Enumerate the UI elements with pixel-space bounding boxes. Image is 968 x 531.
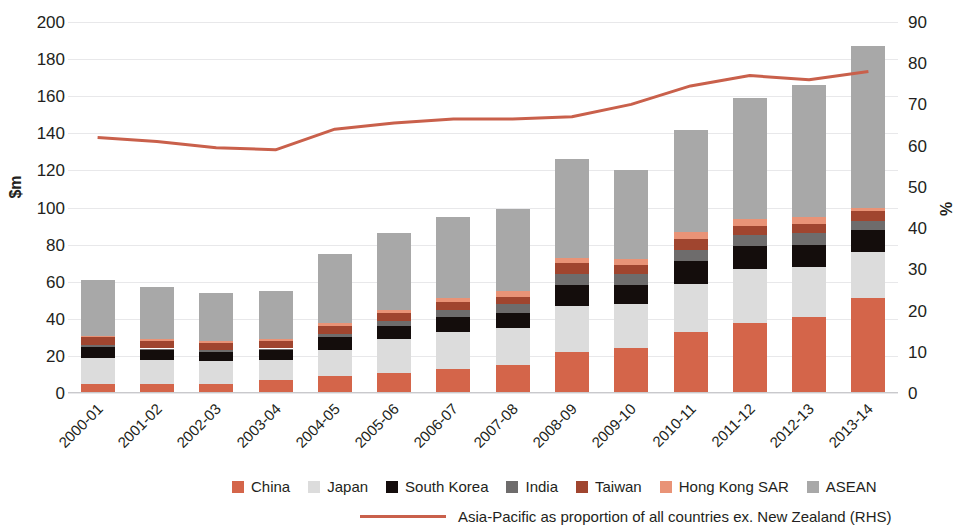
y-axis-right-tick: 80 (908, 55, 954, 72)
legend-label: South Korea (405, 478, 488, 495)
legend-swatch-icon (660, 481, 672, 493)
y-axis-right-tick: 50 (908, 179, 954, 196)
y-axis-left-tick: 120 (5, 162, 65, 179)
legend-label: Japan (327, 478, 368, 495)
legend-item[interactable]: Hong Kong SAR (660, 478, 789, 495)
legend-item[interactable]: India (506, 478, 558, 495)
x-axis-tick-label: 2002-03 (173, 400, 224, 451)
y-axis-right-tick: 60 (908, 138, 954, 155)
x-axis-tick-label: 2011-12 (708, 400, 758, 450)
x-axis-tick-label: 2007-08 (470, 400, 521, 451)
legend-swatch-icon (232, 481, 244, 493)
x-axis-tick-label: 2004-05 (292, 400, 343, 451)
legend-swatch-icon (386, 481, 398, 493)
y-axis-left-tick: 200 (5, 14, 65, 31)
y-axis-left-tick: 0 (5, 385, 65, 402)
legend-line-label: Asia-Pacific as proportion of all countr… (458, 508, 892, 525)
grid-line (68, 393, 898, 394)
line-swatch-icon (360, 515, 446, 518)
legend-swatch-icon (308, 481, 320, 493)
legend-item[interactable]: China (232, 478, 290, 495)
legend-label: ASEAN (826, 478, 877, 495)
y-axis-right-tick: 30 (908, 261, 954, 278)
x-axis-baseline (68, 392, 898, 393)
x-axis-tick-label: 2010-11 (648, 400, 698, 450)
y-axis-left-tick: 60 (5, 274, 65, 291)
y-axis-left-tick: 180 (5, 51, 65, 68)
legend-item[interactable]: South Korea (386, 478, 488, 495)
legend-label: Taiwan (595, 478, 642, 495)
y-axis-right-tick: 40 (908, 220, 954, 237)
legend-item[interactable]: Japan (308, 478, 368, 495)
y-axis-right-tick: 70 (908, 96, 954, 113)
y-axis-right-tick: 90 (908, 14, 954, 31)
line-series-overlay (68, 22, 898, 393)
x-axis-tick-label: 2012-13 (766, 400, 817, 451)
y-axis-left-tick: 80 (5, 237, 65, 254)
y-axis-left-tick: 140 (5, 125, 65, 142)
y-axis-right-tick: 10 (908, 344, 954, 361)
legend-swatch-icon (576, 481, 588, 493)
y-axis-left-tick: 20 (5, 348, 65, 365)
x-axis-tick-label: 2013-14 (825, 400, 876, 451)
x-axis-tick-label: 2008-09 (529, 400, 580, 451)
plot-area (68, 22, 898, 393)
legend-label: China (251, 478, 290, 495)
legend-item[interactable]: ASEAN (807, 478, 877, 495)
y-axis-right-tick: 20 (908, 303, 954, 320)
legend-line-series: Asia-Pacific as proportion of all countr… (360, 508, 892, 525)
x-axis-tick-label: 2009-10 (588, 400, 639, 451)
legend-item[interactable]: Taiwan (576, 478, 642, 495)
x-axis-tick-label: 2003-04 (233, 400, 284, 451)
legend-series: ChinaJapanSouth KoreaIndiaTaiwanHong Kon… (232, 478, 895, 495)
x-axis-tick-label: 2006-07 (410, 400, 461, 451)
x-axis-tick-label: 2000-01 (55, 400, 106, 451)
legend-swatch-icon (807, 481, 819, 493)
legend-swatch-icon (506, 481, 518, 493)
y-axis-right-title: % (938, 202, 956, 216)
y-axis-right-tick: 0 (908, 385, 954, 402)
chart-container: $m % 020406080100120140160180200 0102030… (0, 0, 968, 531)
x-axis-tick-label: 2005-06 (351, 400, 402, 451)
legend-label: Hong Kong SAR (679, 478, 789, 495)
legend-label: India (525, 478, 558, 495)
x-axis-tick-label: 2001-02 (114, 400, 165, 451)
y-axis-left-tick: 100 (5, 200, 65, 217)
y-axis-left-tick: 40 (5, 311, 65, 328)
line-series-path (98, 72, 869, 150)
y-axis-left-tick: 160 (5, 88, 65, 105)
